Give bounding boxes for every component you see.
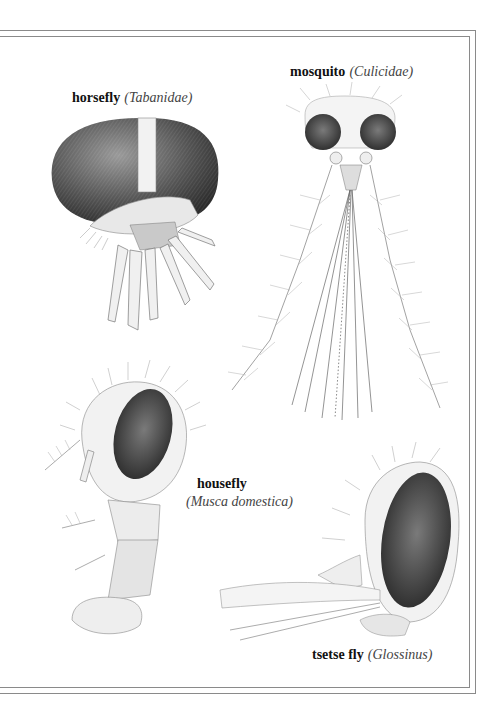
tsetse-scientific-name: (Glossinus)	[368, 647, 433, 662]
housefly-label-common: housefly	[197, 476, 247, 492]
horsefly-common-name: horsefly	[72, 90, 120, 105]
horsefly-label: horsefly (Tabanidae)	[72, 90, 192, 106]
housefly-scientific-name: (Musca domestica)	[186, 494, 293, 509]
mosquito-head-drawing	[228, 82, 448, 420]
horsefly-head-drawing	[52, 118, 219, 330]
mosquito-scientific-name: (Culicidae)	[349, 64, 413, 79]
tsetse-label: tsetse fly (Glossinus)	[312, 647, 432, 663]
mosquito-common-name: mosquito	[290, 64, 345, 79]
tsetse-head-drawing	[220, 442, 459, 640]
tsetse-common-name: tsetse fly	[312, 647, 364, 662]
housefly-common-name: housefly	[197, 476, 247, 491]
housefly-head-drawing	[45, 360, 206, 634]
fly-heads-illustration	[0, 0, 492, 707]
horsefly-scientific-name: (Tabanidae)	[124, 90, 192, 105]
housefly-label-scientific: (Musca domestica)	[186, 494, 293, 510]
mosquito-label: mosquito (Culicidae)	[290, 64, 413, 80]
